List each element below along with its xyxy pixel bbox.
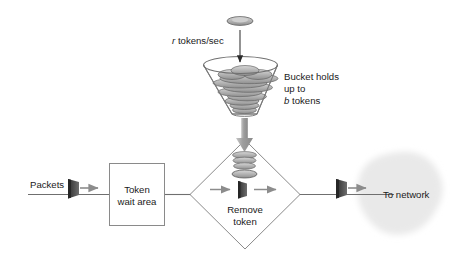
token-wait-area-label-line2: wait area	[117, 196, 158, 207]
token-rate-unit: tokens/sec	[178, 35, 224, 46]
diamond-token-stack	[232, 152, 257, 178]
packets-label: Packets	[30, 179, 64, 190]
bucket-capacity-unit: tokens	[292, 95, 320, 106]
token-bucket-diagram: Token wait area Remove token	[0, 0, 468, 261]
to-network-label: To network	[383, 189, 430, 200]
diagram-canvas: Token wait area Remove token	[0, 0, 468, 261]
packet-glyph-inlet	[68, 179, 79, 199]
packet-glyph-outlet	[336, 179, 347, 199]
incoming-token	[227, 17, 253, 26]
remove-token-label-line2: token	[233, 216, 256, 227]
packet-glyph-diamond	[238, 181, 247, 199]
token-wait-area-label-line1: Token	[124, 184, 150, 195]
token-rate-label: r tokens/sec	[172, 35, 224, 46]
bucket-capacity-label-line2: up to	[284, 83, 305, 94]
token-bucket-funnel	[204, 57, 279, 117]
bucket-capacity-label-line1: Bucket holds	[284, 71, 339, 82]
bucket-capacity-label-line3: b tokens	[284, 95, 320, 106]
remove-token-label-line1: Remove	[227, 204, 263, 215]
